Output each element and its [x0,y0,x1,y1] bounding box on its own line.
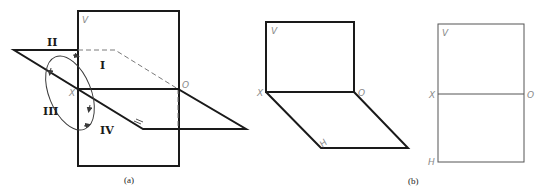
projection-planes-diagram: V X O II I III IV (a) V X O H V X O H (b… [0,0,539,194]
arrow-icon [73,55,77,56]
flat-planes-rect [438,24,524,162]
v-plane-b [266,22,354,92]
label-v-a: V [82,15,89,25]
caption-a: (a) [124,175,134,185]
hidden-edge-a [78,50,178,89]
quadrant-iii: III [43,105,58,118]
label-h-flat: H [428,157,435,167]
figure-b-opened: V X O H [256,22,408,149]
figure-b-flat: V X O H [428,24,534,167]
label-o-flat: O [527,90,534,100]
quadrant-ii: II [47,36,57,49]
label-x-b: X [256,88,264,98]
figure-a: V X O II I III IV (a) [14,11,246,185]
arrow-icon [89,105,90,110]
arrow-icon [84,125,88,126]
label-x-flat: X [428,90,436,100]
label-o-a: O [182,80,189,90]
label-v-b: V [271,26,278,36]
caption-b: (b) [408,176,419,186]
h-plane-b [266,92,408,148]
quadrant-iv: IV [100,124,114,137]
label-v-flat: V [442,28,449,38]
quadrant-i: I [100,59,105,72]
label-o-b: O [358,88,365,98]
label-x-a: X [68,88,76,98]
